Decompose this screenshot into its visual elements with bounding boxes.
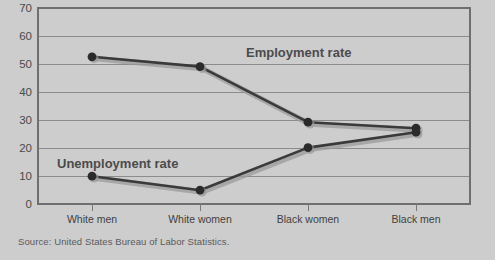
y-tick-50: 50 [19,58,32,70]
unemployment-rate-annotation: Unemployment rate [57,156,178,171]
x-axis-labels: White men White women Black women Black … [67,213,441,225]
unemployment-point-white-women [196,186,205,195]
y-axis-labels: 70 60 50 40 30 20 10 0 [19,2,32,210]
employment-point-white-men [88,52,97,61]
y-tick-0: 0 [26,198,32,210]
x-tick-black-men: Black men [391,213,440,225]
x-tick-white-men: White men [67,213,117,225]
employment-rate-annotation: Employment rate [246,45,351,60]
employment-point-black-women [304,118,313,127]
line-chart: 70 60 50 40 30 20 10 0 White men White w… [0,0,495,260]
y-tick-40: 40 [19,86,32,98]
employment-point-white-women [196,62,205,71]
y-tick-30: 30 [19,114,32,126]
unemployment-point-black-men [412,128,421,137]
y-tick-10: 10 [19,170,32,182]
chart-figure: 70 60 50 40 30 20 10 0 White men White w… [0,0,495,260]
x-axis-ticks [92,204,416,211]
y-tick-70: 70 [19,2,32,14]
x-tick-black-women: Black women [277,213,340,225]
y-tick-60: 60 [19,30,32,42]
y-tick-20: 20 [19,142,32,154]
source-note: Source: United States Bureau of Labor St… [18,236,229,247]
unemployment-point-black-women [304,143,313,152]
unemployment-point-white-men [88,172,97,181]
plot-area-background [38,8,470,204]
x-tick-white-women: White women [168,213,232,225]
